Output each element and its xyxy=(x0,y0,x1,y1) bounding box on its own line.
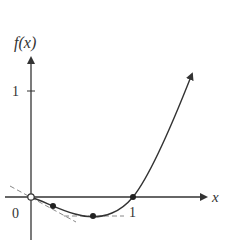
origin-open-point xyxy=(28,194,34,200)
x-tick-label-1: 1 xyxy=(129,205,136,220)
function-curve xyxy=(31,74,192,217)
origin-label: 0 xyxy=(12,206,19,221)
tangent-line-origin xyxy=(10,186,76,222)
y-axis-label: f(x) xyxy=(14,34,36,52)
function-graph: f(x) x 0 1 1 xyxy=(0,0,232,241)
root-point-x1 xyxy=(130,194,136,200)
x-axis-label: x xyxy=(211,189,219,205)
y-tick-label-1: 1 xyxy=(12,84,19,99)
point-on-curve xyxy=(50,203,56,209)
minimum-point xyxy=(90,213,96,219)
